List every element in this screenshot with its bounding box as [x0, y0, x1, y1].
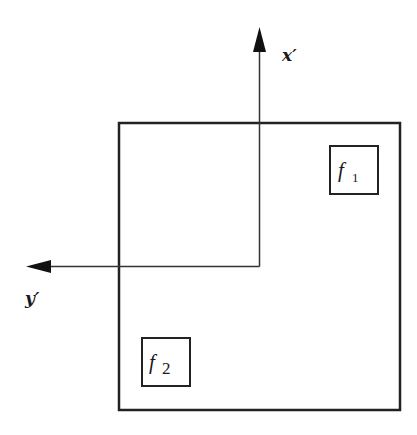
- f2-box: f 2: [142, 338, 190, 386]
- coordinate-diagram: x′ y′ f 1 f 2: [0, 0, 417, 435]
- f2-subscript: 2: [162, 359, 171, 378]
- f1-symbol: f: [338, 158, 347, 182]
- f1-box: f 1: [330, 146, 378, 194]
- y-prime-arrowhead-icon: [26, 260, 51, 273]
- f2-symbol: f: [149, 350, 158, 374]
- x-prime-arrowhead-icon: [253, 27, 266, 52]
- f1-subscript: 1: [352, 170, 359, 185]
- y-prime-label: y′: [24, 288, 40, 308]
- x-prime-label: x′: [281, 45, 297, 65]
